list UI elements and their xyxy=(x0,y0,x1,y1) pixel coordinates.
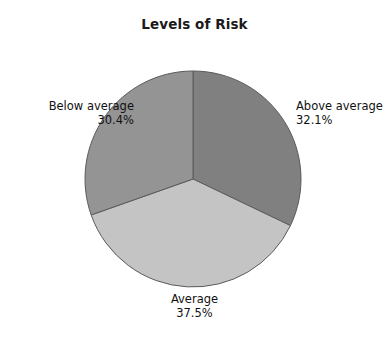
pie-label-above-average-value: 32.1% xyxy=(296,114,383,128)
pie-chart-figure: Levels of Risk Above average 32.1% Below… xyxy=(0,0,389,342)
pie-label-below-average-name: Below average xyxy=(49,100,134,114)
pie-label-above-average: Above average 32.1% xyxy=(296,100,383,127)
pie-label-below-average: Below average 30.4% xyxy=(49,100,134,127)
pie-label-average-value: 37.5% xyxy=(0,307,389,321)
pie-label-above-average-name: Above average xyxy=(296,100,383,114)
pie-label-average-name: Average xyxy=(0,293,389,307)
pie-label-below-average-value: 30.4% xyxy=(49,114,134,128)
pie-label-average: Average 37.5% xyxy=(0,293,389,320)
pie-chart-graphic xyxy=(0,0,389,342)
